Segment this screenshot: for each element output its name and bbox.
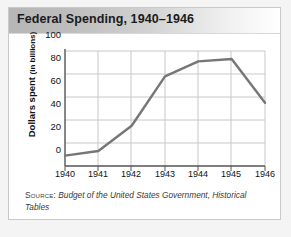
source-label: Source: xyxy=(25,190,56,200)
source-text: Budget of the United States Government, … xyxy=(25,190,246,212)
source-note: Source: Budget of the United States Gove… xyxy=(25,190,269,213)
x-tick-label: 1945 xyxy=(214,169,248,179)
x-tick-label: 1940 xyxy=(48,169,82,179)
x-tick-label: 1942 xyxy=(114,169,148,179)
line-chart-svg xyxy=(9,35,280,187)
x-tick-label: 1946 xyxy=(248,169,282,179)
chart-card: Federal Spending, 1940–1946 Dollars spen… xyxy=(8,7,281,220)
page-title: Federal Spending, 1940–1946 xyxy=(17,12,194,26)
x-axis-tick-labels: 1940 1941 1942 1943 1944 1945 1946 xyxy=(9,169,280,185)
x-tick-label: 1944 xyxy=(181,169,215,179)
chart-plot-area: Dollars spent (in billions) 100 80 60 40… xyxy=(9,35,280,187)
x-tick-label: 1941 xyxy=(81,169,115,179)
x-tick-label: 1943 xyxy=(148,169,182,179)
